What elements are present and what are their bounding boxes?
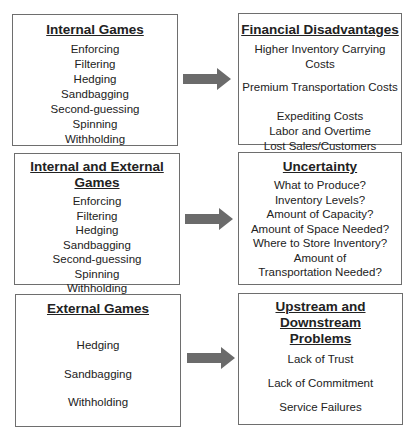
list-item: Amount of Capacity? xyxy=(267,207,374,222)
title-line-1: Upstream and Downstream xyxy=(239,299,402,331)
external-games-title: External Games xyxy=(16,301,180,317)
list-item: Lack of Trust xyxy=(288,352,354,367)
right-arrow-icon xyxy=(183,206,235,232)
list-item: Hedging xyxy=(74,72,117,87)
upstream-downstream-title: Upstream and Downstream Problems xyxy=(239,299,402,347)
list-item: Inventory Levels? xyxy=(275,193,365,208)
list-item: Hedging xyxy=(77,331,120,360)
list-item: Enforcing xyxy=(71,42,120,57)
list-item: Filtering xyxy=(75,57,116,72)
list-item: Second-guessing xyxy=(51,102,140,117)
list-item: Withholding xyxy=(65,132,125,147)
list-item: Higher Inventory Carrying Costs xyxy=(239,42,401,72)
list-item: Filtering xyxy=(77,209,118,224)
internal-games-box: Internal Games Enforcing Filtering Hedgi… xyxy=(12,14,178,146)
list-item: Expediting Costs xyxy=(277,109,363,124)
list-item: What to Produce? xyxy=(274,178,366,193)
list-item: Amount of Space Needed? xyxy=(251,222,389,237)
title-line-2: Problems xyxy=(239,331,402,347)
right-arrow-icon xyxy=(181,66,233,92)
list-item: Spinning xyxy=(75,267,120,282)
list-item: Where to Store Inventory? xyxy=(253,236,387,251)
list-item: Second-guessing xyxy=(53,252,142,267)
right-arrow-icon xyxy=(185,345,237,371)
list-item: Lack of Commitment xyxy=(268,376,373,391)
list-item: Sandbagging xyxy=(64,360,132,389)
financial-disadvantages-box: Financial Disadvantages Higher Inventory… xyxy=(238,13,402,145)
internal-external-games-title: Internal and External Games xyxy=(15,159,179,191)
uncertainty-title: Uncertainty xyxy=(239,159,401,175)
list-item: Premium Transportation Costs xyxy=(242,80,397,95)
uncertainty-box: Uncertainty What to Produce? Inventory L… xyxy=(238,152,402,285)
list-item: Sandbagging xyxy=(61,87,129,102)
list-item: Hedging xyxy=(76,223,119,238)
list-item: Spinning xyxy=(73,117,118,132)
list-item: Labor and Overtime xyxy=(269,124,371,139)
list-item: Service Failures xyxy=(279,400,361,415)
internal-external-games-box: Internal and External Games Enforcing Fi… xyxy=(14,153,180,285)
financial-disadvantages-title: Financial Disadvantages xyxy=(239,22,401,38)
list-item: Sandbagging xyxy=(63,238,131,253)
list-item: Transportation Needed? xyxy=(258,265,382,280)
list-item: Withholding xyxy=(68,388,128,417)
internal-games-title: Internal Games xyxy=(13,22,177,38)
list-item: Enforcing xyxy=(73,194,122,209)
list-item: Amount of xyxy=(294,251,346,266)
upstream-downstream-problems-box: Upstream and Downstream Problems Lack of… xyxy=(238,293,403,425)
external-games-box: External Games Hedging Sandbagging Withh… xyxy=(15,294,181,427)
